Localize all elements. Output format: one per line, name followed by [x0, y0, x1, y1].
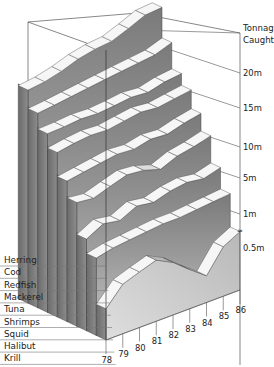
series-side — [87, 252, 97, 336]
ribbons-layer — [18, 3, 240, 340]
series-side — [57, 175, 67, 322]
tick-label-15m: 15m — [243, 103, 262, 113]
legend-item-shrimps: Shrimps — [4, 317, 40, 327]
year-label-83: 83 — [185, 324, 196, 334]
series-side — [38, 127, 48, 312]
legend-item-halibut: Halibut — [4, 341, 36, 351]
year-label-78: 78 — [102, 355, 113, 365]
axis-title-line2: Caught — [243, 35, 274, 45]
legend-item-redfish: Redfish — [4, 280, 36, 290]
year-label-82: 82 — [169, 330, 180, 340]
legend-item-squid: Squid — [4, 329, 29, 339]
tick-label-5m: 5m — [243, 173, 257, 183]
axis-break-icon: ≈ — [237, 227, 243, 235]
tick-label-20m: 20m — [243, 68, 262, 78]
legend-item-herring: Herring — [4, 255, 37, 265]
year-label-81: 81 — [152, 336, 163, 346]
tick-label-1m: 1m — [243, 209, 257, 219]
series-side — [28, 107, 38, 308]
axis-title-line1: Tonnage — [242, 23, 274, 33]
year-label-79: 79 — [118, 349, 129, 359]
legend-item-tuna: Tuna — [3, 304, 25, 314]
year-label-85: 85 — [219, 311, 230, 321]
year-label-80: 80 — [135, 343, 146, 353]
legend-item-cod: Cod — [4, 267, 21, 277]
series-side — [67, 196, 77, 326]
legend-item-mackerel: Mackerel — [4, 292, 43, 302]
tonnage-chart: ≈ Tonnage Caught 20m15m10m5m1m0.5m Herri… — [0, 0, 274, 367]
series-side — [48, 146, 58, 317]
series-side — [77, 233, 87, 331]
legend-item-krill: Krill — [4, 353, 21, 363]
tick-label-0_5m: 0.5m — [243, 243, 264, 253]
year-label-86: 86 — [236, 305, 247, 315]
tick-label-10m: 10m — [243, 142, 262, 152]
year-label-84: 84 — [202, 318, 213, 328]
value-tick-labels: 20m15m10m5m1m0.5m — [243, 68, 264, 253]
